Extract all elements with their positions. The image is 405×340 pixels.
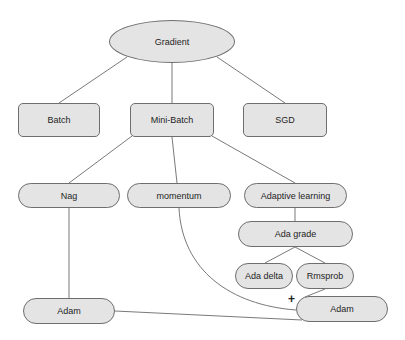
node-label: Gradient	[155, 37, 190, 47]
node-batch[interactable]: Batch	[18, 103, 100, 137]
node-mini-batch[interactable]: Mini-Batch	[130, 103, 214, 137]
plus-icon: +	[288, 293, 295, 305]
edge-minibatch-momentum	[172, 137, 177, 183]
node-label: Adam	[57, 306, 81, 316]
node-rmsprob[interactable]: Rmsprob	[296, 263, 354, 289]
node-label: Batch	[47, 115, 70, 125]
node-momentum[interactable]: momentum	[127, 183, 231, 208]
node-label: Adam	[330, 304, 354, 314]
node-label: Mini-Batch	[151, 115, 194, 125]
node-label: SGD	[275, 115, 295, 125]
node-label: momentum	[156, 191, 201, 201]
node-ada-grade[interactable]: Ada grade	[238, 221, 353, 247]
node-ada-delta[interactable]: Ada delta	[235, 263, 293, 289]
node-label: Rmsprob	[307, 271, 344, 281]
node-label: Nag	[61, 191, 78, 201]
node-adam-left[interactable]: Adam	[23, 298, 115, 324]
edge-minibatch-adaptive	[212, 136, 295, 183]
node-label: Ada grade	[275, 229, 317, 239]
node-gradient[interactable]: Gradient	[109, 20, 235, 63]
node-adaptive-learning[interactable]: Adaptive learning	[244, 183, 347, 208]
node-label: Ada delta	[245, 271, 283, 281]
node-label: Adaptive learning	[261, 191, 331, 201]
node-adam-right[interactable]: Adam	[296, 296, 388, 322]
edge-minibatch-nag	[69, 136, 132, 183]
node-sgd[interactable]: SGD	[243, 103, 327, 137]
edge-gradient-sgd	[217, 57, 285, 103]
node-nag[interactable]: Nag	[18, 183, 120, 208]
edge-gradient-batch	[59, 57, 127, 103]
edge-adamleft-adamright	[115, 311, 302, 320]
edge-adagrade-rmsprob	[295, 247, 325, 263]
edge-adagrade-adadelta	[265, 247, 295, 263]
